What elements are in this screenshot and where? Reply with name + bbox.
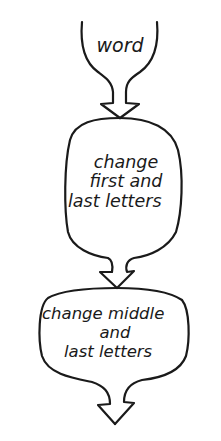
node-line: last letters [40,343,190,362]
node-change-first-last-label: change first and last letters [68,153,184,211]
node-line: and [40,324,190,343]
node-word-label: word [82,36,158,56]
node-change-middle-last-label: change middle and last letters [40,305,190,362]
node-word-line: word [82,36,158,56]
node-line: change middle [40,305,190,324]
node-line: first and [68,172,184,191]
flowchart-canvas [0,0,221,441]
node-line: change [68,153,184,172]
node-line: last letters [68,192,184,211]
